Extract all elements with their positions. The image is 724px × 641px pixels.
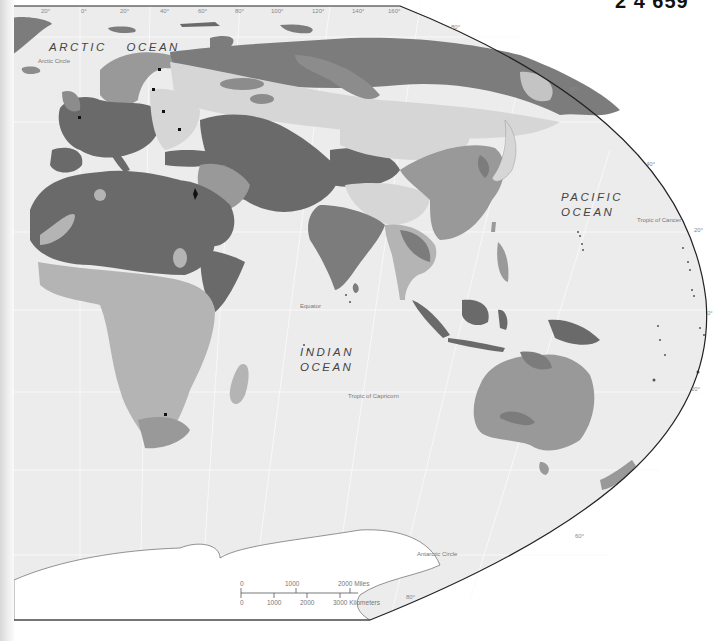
- scale-miles-2000: 2000 Miles: [338, 580, 369, 587]
- label-tropic-of-cancer: Tropic of Cancer: [637, 217, 681, 223]
- latitude-tick: 60°: [570, 86, 579, 92]
- ocean-label-line: PACIFIC: [561, 190, 623, 205]
- label-tropic-of-capricorn: Tropic of Capricorn: [348, 393, 399, 399]
- longitude-tick: 120°: [312, 8, 324, 14]
- longitude-tick: 40°: [160, 8, 169, 14]
- longitude-tick: 140°: [352, 8, 364, 14]
- world-map: [0, 0, 724, 641]
- scale-line: [240, 587, 360, 599]
- longitude-tick: 100°: [271, 8, 283, 14]
- longitude-tick: 80°: [235, 8, 244, 14]
- ocean-label-line: OCEAN: [300, 360, 354, 375]
- latitude-tick: 0°: [707, 310, 713, 316]
- longitude-tick: 60°: [198, 8, 207, 14]
- latitude-tick: 20°: [694, 227, 703, 233]
- longitude-tick: 20°: [41, 8, 50, 14]
- scale-km-2000: 2000: [300, 599, 314, 606]
- scale-miles-0: 0: [240, 580, 244, 587]
- ocean-label-line: INDIAN: [300, 345, 354, 360]
- zone-sahara-2: [94, 189, 106, 201]
- label-antarctic-circle: Antarctic Circle: [417, 551, 457, 557]
- ocean-label-line: OCEAN: [561, 205, 623, 220]
- map-title-fragment: 2 4 659: [615, 0, 689, 13]
- torn-edge: [0, 0, 14, 641]
- ocean-label-indian: INDIAN OCEAN: [300, 345, 354, 375]
- longitude-tick: 20°: [120, 8, 129, 14]
- latitude-tick: 20°: [691, 386, 700, 392]
- longitude-tick: 0°: [81, 8, 87, 14]
- scale-km-1000: 1000: [267, 599, 281, 606]
- scale-miles-1000: 1000: [285, 580, 299, 587]
- zone-siberia-2: [250, 94, 274, 104]
- label-arctic-circle: Arctic Circle: [38, 58, 70, 64]
- latitude-tick: 60°: [575, 533, 584, 539]
- label-equator: Equator: [300, 303, 321, 309]
- longitude-tick: 160°: [388, 8, 400, 14]
- latitude-tick: 80°: [451, 24, 460, 30]
- ocean-label-line: OCEAN: [127, 41, 180, 53]
- ocean-label-pacific: PACIFIC OCEAN: [561, 190, 623, 220]
- scale-km-3000: 3000 Kilometers: [333, 599, 380, 606]
- ocean-label-line: ARCTIC: [49, 41, 107, 53]
- scale-bar: 0 1000 2000 Miles 0 1000 2000 3000 Kilom…: [240, 580, 380, 610]
- zone-sahara-3: [173, 248, 187, 268]
- ocean-label-arctic: ARCTIC OCEAN: [49, 40, 180, 55]
- zone-siberia-1: [220, 78, 264, 90]
- latitude-tick: 40°: [646, 161, 655, 167]
- latitude-tick: 80°: [406, 594, 415, 600]
- scale-km-0: 0: [240, 599, 244, 606]
